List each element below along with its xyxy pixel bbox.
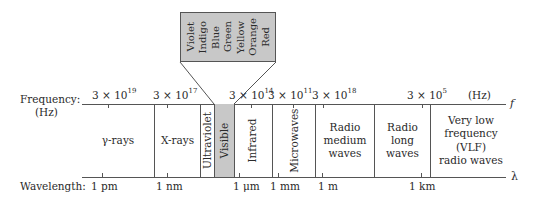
frequency-tick-label: 3 × 1018 <box>312 90 356 101</box>
color-label-red: Red <box>261 27 271 47</box>
frequency-tick-label: 3 × 1017 <box>153 90 197 101</box>
region-infrared: Infrared <box>235 104 272 177</box>
wavelength-tick-label: 1 mm <box>270 181 300 192</box>
wavelength-tick-label: 1 pm <box>91 181 118 192</box>
color-label-blue: Blue <box>211 26 221 49</box>
visible-spectrum-callout: Violet Indigo Blue Green Yellow Orange R… <box>180 12 276 62</box>
frequency-axis-label: Frequency: <box>20 94 80 105</box>
region-radio-long-waves: Radio long waves <box>375 104 430 177</box>
frequency-tick-label: 3 × 105 <box>407 90 447 101</box>
region-vlf-radio-waves: Very low frequency (VLF) radio waves <box>431 104 511 177</box>
frequency-tick-label: 3 × 1011 <box>268 90 312 101</box>
wavelength-tick-label: 1 m <box>318 181 338 192</box>
region-x-rays: X-rays <box>155 104 200 177</box>
wavelength-axis-label: Wavelength: <box>20 181 86 192</box>
wavelength-axis-line <box>82 177 506 178</box>
color-label-yellow: Yellow <box>236 21 246 54</box>
frequency-unit-right: (Hz) <box>468 90 491 101</box>
color-label-violet: Violet <box>186 22 196 51</box>
wavelength-tick-label: 1 km <box>409 181 435 192</box>
color-label-green: Green <box>223 21 233 52</box>
region-visible: Visible <box>215 104 234 177</box>
wavelength-tick-label: 1 nm <box>156 181 183 192</box>
color-label-indigo: Indigo <box>198 21 208 53</box>
color-label-orange: Orange <box>248 18 258 56</box>
frequency-tick-label: 3 × 1019 <box>92 90 136 101</box>
wavelength-tick-label: 1 μm <box>233 181 260 192</box>
wavelength-symbol: λ <box>511 171 518 182</box>
frequency-unit-label: (Hz) <box>35 107 58 118</box>
region-ultraviolet: Ultraviolet <box>201 104 214 177</box>
region-gamma-rays: γ-rays <box>82 104 154 177</box>
frequency-tick-label: 3 × 1014 <box>229 90 273 101</box>
region-microwaves: Microwaves <box>273 104 315 177</box>
region-radio-medium-waves: Radio medium waves <box>316 104 374 177</box>
